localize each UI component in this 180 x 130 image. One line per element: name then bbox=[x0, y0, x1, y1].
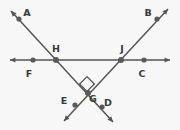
point-E[interactable] bbox=[72, 102, 77, 107]
label-J: J bbox=[119, 43, 124, 54]
point-B[interactable] bbox=[154, 16, 159, 21]
label-F: F bbox=[26, 68, 33, 79]
point-J[interactable] bbox=[118, 57, 124, 63]
point-C[interactable] bbox=[141, 57, 146, 62]
label-D: D bbox=[104, 97, 112, 108]
geometry-canvas: ABCDEFGHJ bbox=[0, 0, 180, 130]
label-H: H bbox=[52, 43, 60, 54]
label-E: E bbox=[61, 95, 68, 106]
point-A[interactable] bbox=[16, 16, 21, 21]
label-A: A bbox=[23, 7, 31, 18]
point-F[interactable] bbox=[30, 57, 35, 62]
label-C: C bbox=[139, 68, 146, 79]
point-H[interactable] bbox=[53, 57, 59, 63]
geometry-figure: ABCDEFGHJ bbox=[0, 0, 180, 130]
figure-background bbox=[0, 0, 180, 130]
label-G: G bbox=[89, 93, 97, 104]
label-B: B bbox=[144, 7, 151, 18]
